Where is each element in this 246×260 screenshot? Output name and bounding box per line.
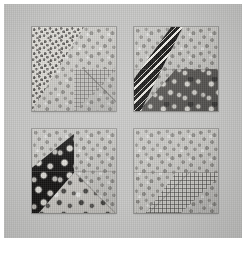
block-bottom-right — [134, 129, 218, 213]
quilt-photograph — [0, 0, 246, 260]
seam-horizontal — [134, 172, 218, 173]
block-top-left — [32, 27, 116, 111]
block-bottom-left — [32, 129, 116, 213]
seam-vertical — [176, 129, 177, 172]
seam-horizontal — [32, 171, 116, 172]
block-top-right — [134, 27, 218, 111]
seam-horizontal — [32, 69, 116, 70]
